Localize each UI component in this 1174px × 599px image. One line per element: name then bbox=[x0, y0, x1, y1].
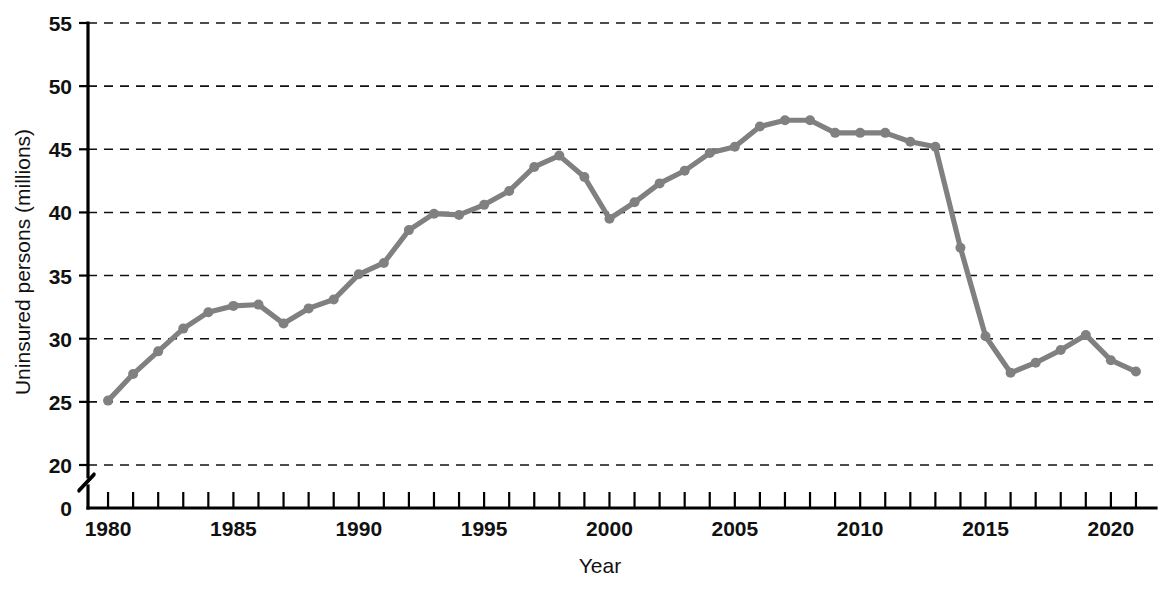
data-point bbox=[780, 115, 790, 125]
data-point bbox=[279, 319, 289, 329]
data-point bbox=[554, 151, 564, 161]
data-point bbox=[755, 122, 765, 132]
y-tick-label: 55 bbox=[49, 12, 73, 35]
x-tick-label: 2010 bbox=[837, 517, 884, 540]
data-point bbox=[579, 172, 589, 182]
data-point bbox=[905, 137, 915, 147]
data-point bbox=[404, 225, 414, 235]
y-tick-label: 40 bbox=[49, 201, 72, 224]
y-tick-label: 30 bbox=[49, 328, 72, 351]
data-point bbox=[930, 142, 940, 152]
x-tick-label: 2020 bbox=[1088, 517, 1135, 540]
x-axis-title: Year bbox=[579, 554, 621, 577]
data-point bbox=[855, 128, 865, 138]
data-point bbox=[1081, 330, 1091, 340]
data-point bbox=[1056, 345, 1066, 355]
data-point bbox=[253, 300, 263, 310]
data-point bbox=[153, 346, 163, 356]
data-point bbox=[705, 148, 715, 158]
data-point bbox=[504, 186, 514, 196]
y-tick-label: 35 bbox=[49, 265, 73, 288]
data-point bbox=[1031, 358, 1041, 368]
series-uninsured-persons bbox=[103, 115, 1141, 405]
data-point bbox=[178, 324, 188, 334]
uninsured-persons-line-chart: 20253035404550550 1980198519901995200020… bbox=[0, 0, 1174, 599]
x-tick-label: 2000 bbox=[586, 517, 633, 540]
data-point bbox=[329, 295, 339, 305]
x-tick-label: 2015 bbox=[962, 517, 1009, 540]
y-tick-label: 25 bbox=[49, 391, 73, 414]
y-axis-title: Uninsured persons (millions) bbox=[11, 129, 34, 395]
data-point bbox=[228, 301, 238, 311]
data-point bbox=[880, 128, 890, 138]
y-tick-label: 20 bbox=[49, 454, 72, 477]
data-point bbox=[103, 396, 113, 406]
data-point bbox=[203, 307, 213, 317]
chart-canvas: 20253035404550550 1980198519901995200020… bbox=[0, 0, 1174, 599]
data-point bbox=[529, 162, 539, 172]
data-point bbox=[454, 210, 464, 220]
data-point bbox=[429, 209, 439, 219]
x-tick-label: 1995 bbox=[461, 517, 508, 540]
data-point bbox=[379, 258, 389, 268]
data-point bbox=[128, 369, 138, 379]
y-tick-label: 45 bbox=[49, 138, 73, 161]
x-tick-label: 1990 bbox=[335, 517, 382, 540]
x-tick-label: 1985 bbox=[210, 517, 257, 540]
data-point bbox=[981, 331, 991, 341]
gridlines bbox=[88, 23, 1156, 465]
x-tick-label: 1980 bbox=[85, 517, 132, 540]
data-point bbox=[354, 269, 364, 279]
data-point bbox=[630, 197, 640, 207]
data-point bbox=[680, 166, 690, 176]
y-tick-label-zero: 0 bbox=[60, 497, 72, 520]
data-point bbox=[955, 243, 965, 253]
data-point bbox=[304, 303, 314, 313]
data-point bbox=[830, 128, 840, 138]
data-point bbox=[1106, 355, 1116, 365]
series-polyline bbox=[108, 120, 1136, 400]
data-point bbox=[479, 200, 489, 210]
y-tick-label: 50 bbox=[49, 75, 72, 98]
data-point bbox=[655, 178, 665, 188]
x-tick-label: 2005 bbox=[711, 517, 758, 540]
data-point bbox=[730, 142, 740, 152]
data-point bbox=[1131, 367, 1141, 377]
data-point bbox=[1006, 368, 1016, 378]
data-point bbox=[805, 115, 815, 125]
data-point bbox=[604, 214, 614, 224]
x-axis bbox=[88, 492, 1156, 508]
y-axis bbox=[79, 23, 94, 508]
y-tick-labels: 20253035404550550 bbox=[49, 12, 73, 520]
x-tick-labels: 198019851990199520002005201020152020 bbox=[85, 517, 1135, 540]
